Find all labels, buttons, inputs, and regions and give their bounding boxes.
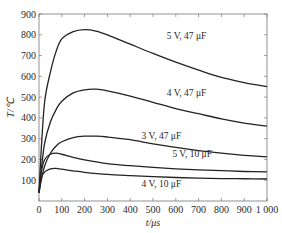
plot-frame (39, 14, 267, 201)
series-label: 3 V, 47 μF (142, 131, 182, 141)
y-tick-label: 200 (21, 154, 36, 165)
data-curves (39, 30, 267, 193)
series-label: 5 V, 47 μF (167, 31, 207, 41)
x-tick-label: 800 (214, 204, 229, 215)
x-tick-label: 0 (37, 204, 42, 215)
x-tick-label: 900 (237, 204, 252, 215)
series-line (39, 30, 267, 193)
x-tick-label: 400 (123, 204, 138, 215)
x-tick-label: 500 (146, 204, 161, 215)
y-tick-label: 900 (21, 9, 36, 20)
y-tick-label: 100 (21, 175, 36, 186)
x-tick-label: 600 (168, 204, 183, 215)
y-tick-label: 500 (21, 92, 36, 103)
y-tick-label: 600 (21, 71, 36, 82)
series-label: 4 V, 47 μF (167, 88, 207, 98)
line-chart: 01002003004005006007008009001 0001002003… (0, 0, 282, 233)
series-label: 4 V, 10 μF (142, 179, 182, 189)
x-axis-label: t/μs (146, 217, 161, 228)
series-labels: 5 V, 47 μF4 V, 47 μF3 V, 47 μF5 V, 10 μF… (142, 31, 212, 190)
x-tick-label: 700 (191, 204, 206, 215)
y-tick-label: 300 (21, 133, 36, 144)
x-tick-label: 100 (54, 204, 69, 215)
x-tick-label: 1 000 (256, 204, 279, 215)
series-label: 5 V, 10 μF (172, 149, 212, 159)
y-tick-label: 700 (21, 50, 36, 61)
x-tick-label: 200 (77, 204, 92, 215)
y-axis-label: T/℃ (5, 96, 16, 117)
x-tick-label: 300 (100, 204, 115, 215)
y-tick-label: 800 (21, 29, 36, 40)
y-tick-label: 400 (21, 112, 36, 123)
